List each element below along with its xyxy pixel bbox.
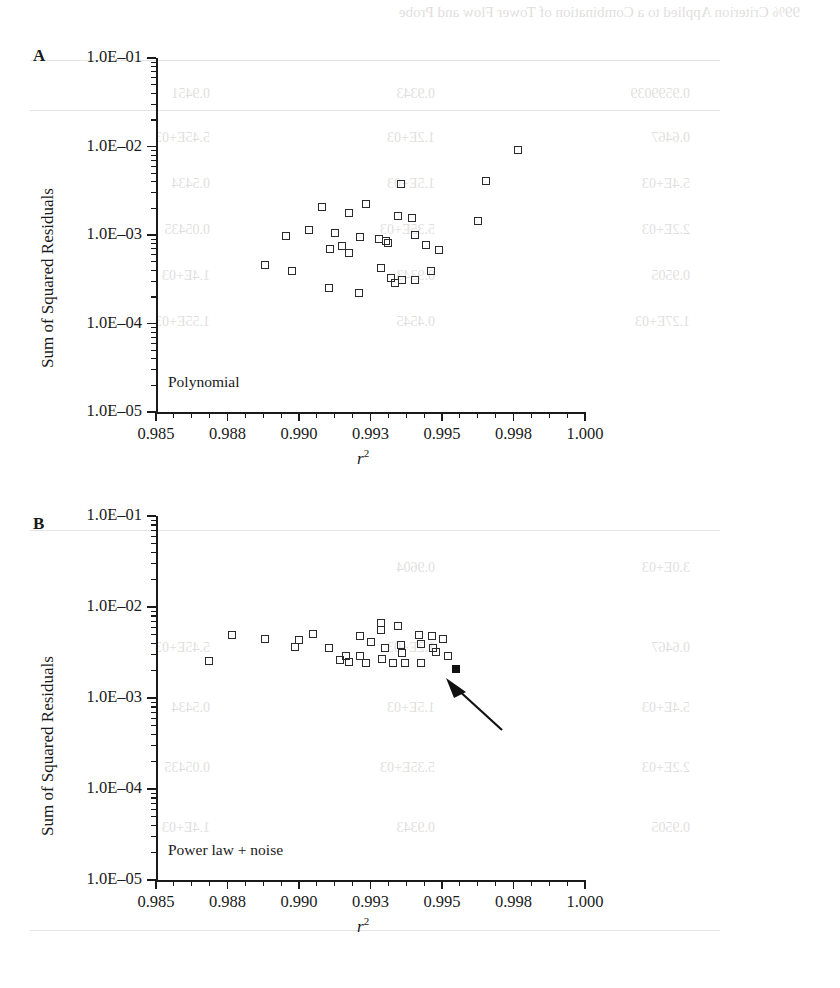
data-point	[417, 640, 425, 648]
x-axis-minor-tick	[459, 880, 460, 886]
y-axis-minor-tick	[151, 836, 156, 837]
x-axis-major-tick	[441, 880, 443, 889]
y-axis-minor-tick	[151, 702, 156, 703]
y-axis-major-tick	[147, 788, 156, 790]
x-axis-minor-tick	[424, 880, 425, 886]
y-axis-minor-tick	[151, 543, 156, 544]
data-point	[415, 631, 423, 639]
data-point	[378, 655, 386, 663]
y-axis-minor-tick	[151, 706, 156, 707]
x-axis-minor-tick	[549, 880, 550, 886]
data-point	[228, 631, 236, 639]
y-axis-minor-tick	[151, 852, 156, 853]
x-axis-major-tick	[298, 880, 300, 889]
panel-b: B Sum of Squared Residuals 1.0E–011.0E–0…	[0, 0, 840, 988]
y-axis-minor-tick	[151, 530, 156, 531]
y-axis-minor-tick	[151, 634, 156, 635]
data-point	[401, 659, 409, 667]
data-point	[345, 658, 353, 666]
x-axis-major-tick	[227, 880, 229, 889]
x-axis-minor-tick	[352, 880, 353, 886]
data-point	[362, 659, 370, 667]
y-axis-minor-tick	[151, 524, 156, 525]
data-point	[336, 656, 344, 664]
y-axis-minor-tick	[151, 718, 156, 719]
x-axis-major-tick	[513, 880, 515, 889]
x-axis-minor-tick	[388, 880, 389, 886]
data-point	[205, 657, 213, 665]
data-point	[432, 648, 440, 656]
y-axis-minor-tick	[151, 745, 156, 746]
x-axis-minor-tick	[191, 880, 192, 886]
x-axis-minor-tick	[495, 880, 496, 886]
y-axis-minor-tick	[151, 611, 156, 612]
y-axis-minor-tick	[151, 816, 156, 817]
data-point	[356, 632, 364, 640]
y-axis-minor-tick	[151, 563, 156, 564]
y-axis-tick-label: 1.0E–04	[38, 778, 142, 798]
y-axis-tick-label: 1.0E–03	[38, 687, 142, 707]
y-axis-major-tick	[147, 515, 156, 517]
y-axis-tick-label: 1.0E–02	[38, 596, 142, 616]
x-axis-minor-tick	[173, 880, 174, 886]
data-point	[381, 644, 389, 652]
y-axis-minor-tick	[151, 654, 156, 655]
y-axis-minor-tick	[151, 761, 156, 762]
data-point	[439, 635, 447, 643]
y-axis-minor-tick	[151, 579, 156, 580]
annotation-arrow-icon	[440, 676, 530, 746]
data-point	[417, 659, 425, 667]
y-axis-minor-tick	[151, 797, 156, 798]
y-axis-minor-tick	[151, 615, 156, 616]
data-point	[377, 626, 385, 634]
panel-b-series-label: Power law + noise	[168, 841, 283, 859]
panel-b-x-axis-title: r2	[357, 915, 369, 937]
data-point	[309, 630, 317, 638]
x-axis-minor-tick	[334, 880, 335, 886]
data-point	[397, 641, 405, 649]
panel-b-x-axis-title-base: r	[357, 917, 364, 936]
y-axis-line	[156, 516, 158, 880]
x-axis-minor-tick	[281, 880, 282, 886]
data-point	[398, 649, 406, 657]
y-axis-minor-tick	[151, 670, 156, 671]
y-axis-minor-tick	[151, 712, 156, 713]
y-axis-major-tick	[147, 697, 156, 699]
data-point	[389, 659, 397, 667]
figure-panels: A Sum of Squared Residuals 1.0E–011.0E–0…	[0, 0, 840, 988]
x-axis-minor-tick	[406, 880, 407, 886]
x-axis-minor-tick	[209, 880, 210, 886]
x-axis-minor-tick	[567, 880, 568, 886]
panel-b-x-axis-title-exp: 2	[364, 915, 370, 927]
y-axis-minor-tick	[151, 627, 156, 628]
y-axis-minor-tick	[151, 734, 156, 735]
y-axis-minor-tick	[151, 520, 156, 521]
data-point	[261, 635, 269, 643]
x-axis-tick-label: 1.000	[540, 892, 630, 912]
y-axis-tick-label: 1.0E–05	[38, 869, 142, 889]
x-axis-minor-tick	[316, 880, 317, 886]
y-axis-minor-tick	[151, 725, 156, 726]
data-point	[394, 622, 402, 630]
y-axis-minor-tick	[151, 621, 156, 622]
x-axis-major-tick	[370, 880, 372, 889]
x-axis-minor-tick	[477, 880, 478, 886]
y-axis-minor-tick	[151, 825, 156, 826]
y-axis-tick-label: 1.0E–01	[38, 505, 142, 525]
x-axis-major-tick	[155, 880, 157, 889]
y-axis-minor-tick	[151, 643, 156, 644]
data-point	[325, 644, 333, 652]
data-point-highlighted	[452, 665, 460, 673]
data-point	[291, 643, 299, 651]
y-axis-minor-tick	[151, 803, 156, 804]
data-point	[428, 632, 436, 640]
x-axis-minor-tick	[263, 880, 264, 886]
y-axis-minor-tick	[151, 536, 156, 537]
y-axis-minor-tick	[151, 793, 156, 794]
data-point	[444, 652, 452, 660]
x-axis-minor-tick	[245, 880, 246, 886]
y-axis-minor-tick	[151, 809, 156, 810]
y-axis-major-tick	[147, 606, 156, 608]
data-point	[367, 638, 375, 646]
x-axis-minor-tick	[531, 880, 532, 886]
